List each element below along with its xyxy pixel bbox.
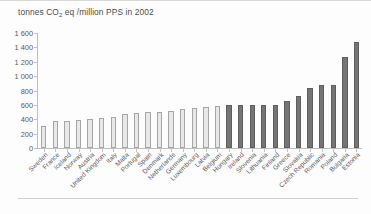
bar-slot	[189, 33, 201, 148]
bar-slot	[177, 33, 189, 148]
bar-slot	[339, 33, 351, 148]
bar-slot	[142, 33, 154, 148]
y-axis-tick-label: 1 400	[15, 43, 34, 52]
bar[interactable]	[273, 105, 278, 148]
bar[interactable]	[238, 105, 243, 148]
y-axis-tick-label: 600	[21, 100, 33, 109]
bar-slot	[131, 33, 143, 148]
bar[interactable]	[76, 120, 81, 148]
bar[interactable]	[122, 114, 127, 148]
bar[interactable]	[111, 117, 116, 148]
plot-area	[37, 33, 362, 148]
bar-slot	[154, 33, 166, 148]
bar-slot	[327, 33, 339, 148]
bar[interactable]	[319, 85, 324, 148]
bar-slot	[212, 33, 224, 148]
chart-title-main: tonnes CO	[18, 7, 59, 17]
bar[interactable]	[215, 106, 220, 148]
bar[interactable]	[145, 112, 150, 148]
chart-title: tonnes CO2 eq /million PPS in 2002	[18, 7, 154, 17]
bar-slot	[235, 33, 247, 148]
y-axis-tick-label: 800	[21, 86, 33, 95]
bar[interactable]	[307, 88, 312, 148]
frame-top-rule	[0, 0, 371, 1]
bar[interactable]	[226, 105, 231, 148]
chart-title-subscript: 2	[59, 12, 62, 18]
y-axis-tick	[34, 91, 38, 92]
y-axis-tick-label: 1 000	[15, 72, 34, 81]
bar-slot	[281, 33, 293, 148]
bar-slot	[61, 33, 73, 148]
bar[interactable]	[203, 107, 208, 148]
y-axis-tick-label: 0	[29, 144, 33, 153]
y-axis-tick-label: 1 200	[15, 57, 34, 66]
y-axis-tick	[34, 105, 38, 106]
bar-slot	[119, 33, 131, 148]
y-axis-tick	[34, 62, 38, 63]
bar[interactable]	[261, 105, 266, 148]
bar-slot	[50, 33, 62, 148]
y-axis-tick-label: 400	[21, 115, 33, 124]
bar[interactable]	[354, 42, 359, 148]
bar-slot	[258, 33, 270, 148]
x-axis-labels: SwedenFranceIcelandNorwayAustriaUnited K…	[38, 150, 362, 212]
y-axis-tick-label: 200	[21, 129, 33, 138]
y-axis-tick	[34, 76, 38, 77]
bar[interactable]	[284, 101, 289, 148]
bar-slot	[304, 33, 316, 148]
bar[interactable]	[53, 121, 58, 148]
bar[interactable]	[250, 105, 255, 148]
bar[interactable]	[41, 126, 46, 148]
bar-slot	[316, 33, 328, 148]
x-axis-line	[37, 148, 362, 149]
x-label-slot: Estonia	[351, 150, 363, 212]
y-axis-tick	[34, 33, 38, 34]
bar-slot	[200, 33, 212, 148]
bar-series	[38, 33, 362, 148]
bar[interactable]	[87, 119, 92, 148]
bar[interactable]	[168, 111, 173, 148]
bar-slot	[84, 33, 96, 148]
y-axis-labels: 02004006008001 0001 2001 4001 600	[0, 33, 33, 148]
bar-slot	[293, 33, 305, 148]
bar-slot	[73, 33, 85, 148]
bar-slot	[165, 33, 177, 148]
bar[interactable]	[64, 121, 69, 148]
bar-slot	[38, 33, 50, 148]
bar-slot	[270, 33, 282, 148]
bar-slot	[246, 33, 258, 148]
y-axis-tick	[34, 47, 38, 48]
bar[interactable]	[180, 109, 185, 148]
bar-slot	[107, 33, 119, 148]
bar[interactable]	[342, 57, 347, 148]
bar[interactable]	[296, 96, 301, 148]
y-axis-tick	[34, 148, 38, 149]
chart-page: tonnes CO2 eq /million PPS in 2002 02004…	[0, 0, 371, 214]
y-axis-tick-label: 1 600	[15, 29, 34, 38]
chart-title-rest: eq /million PPS in 2002	[62, 7, 153, 17]
bar[interactable]	[134, 113, 139, 148]
bar[interactable]	[192, 108, 197, 148]
bar[interactable]	[157, 112, 162, 148]
y-axis-tick	[34, 119, 38, 120]
bar-slot	[223, 33, 235, 148]
bar[interactable]	[331, 85, 336, 148]
bar-slot	[351, 33, 363, 148]
bar-slot	[96, 33, 108, 148]
bar[interactable]	[99, 118, 104, 148]
y-axis-tick	[34, 134, 38, 135]
